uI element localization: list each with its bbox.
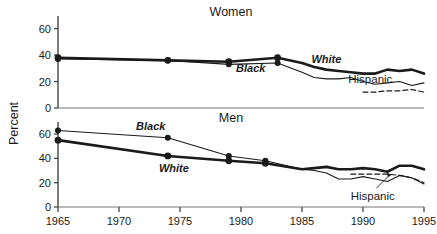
series-line-women-hispanic <box>363 89 424 92</box>
y-tick-label-women-40: 40 <box>39 49 51 61</box>
data-point-women-black-1974 <box>165 57 171 63</box>
annotations-group: WhiteBlackHispanicBlackWhiteHispanic <box>136 53 395 202</box>
data-point-men-black-1979 <box>226 153 232 159</box>
series-annotation-men-hispanic: Hispanic <box>351 190 395 202</box>
data-point-women-black-1979 <box>226 61 232 67</box>
x-axis-group: 1965197019751980198519901995 <box>46 207 436 227</box>
y-tick-label-women-0: 0 <box>45 102 51 114</box>
data-point-women-black-1983 <box>275 60 281 66</box>
y-axis-title: Percent <box>7 101 21 145</box>
data-point-men-white-1974 <box>164 153 171 160</box>
panel-women: 0204060Women <box>39 5 424 114</box>
panel-title-women: Women <box>210 5 253 19</box>
x-tick-label-1975: 1975 <box>168 215 192 227</box>
x-tick-label-1980: 1980 <box>229 215 253 227</box>
series-line-men-white <box>58 140 424 172</box>
y-tick-label-men-20: 20 <box>39 177 51 189</box>
x-tick-label-1965: 1965 <box>46 215 70 227</box>
series-annotation-women-white: White <box>311 53 341 65</box>
y-tick-label-men-0: 0 <box>45 201 51 213</box>
y-tick-label-men-60: 60 <box>39 128 51 140</box>
data-point-men-black-1982 <box>262 158 268 164</box>
x-tick-label-1970: 1970 <box>107 215 131 227</box>
x-tick-label-1990: 1990 <box>351 215 375 227</box>
y-tick-label-women-20: 20 <box>39 76 51 88</box>
series-annotation-women-hispanic: Hispanic <box>348 73 392 85</box>
data-point-women-black-1965 <box>55 56 61 62</box>
chart-figure: Percent0204060Women0204060Men19651970197… <box>0 0 437 234</box>
hispanic-leader-arrow-men <box>387 173 391 176</box>
series-annotation-men-black: Black <box>136 120 166 132</box>
data-point-men-black-1965 <box>55 127 61 133</box>
data-point-men-black-1974 <box>165 135 171 141</box>
series-annotation-women-black: Black <box>236 62 266 74</box>
series-annotation-men-white: White <box>159 162 189 174</box>
x-tick-label-1995: 1995 <box>412 215 436 227</box>
series-line-men-black <box>58 130 424 183</box>
x-tick-label-1985: 1985 <box>290 215 314 227</box>
chart-canvas: Percent0204060Women0204060Men19651970197… <box>0 0 437 234</box>
panel-title-men: Men <box>219 111 243 125</box>
y-tick-label-men-40: 40 <box>39 152 51 164</box>
data-point-men-white-1965 <box>55 137 62 144</box>
y-tick-label-women-60: 60 <box>39 23 51 35</box>
